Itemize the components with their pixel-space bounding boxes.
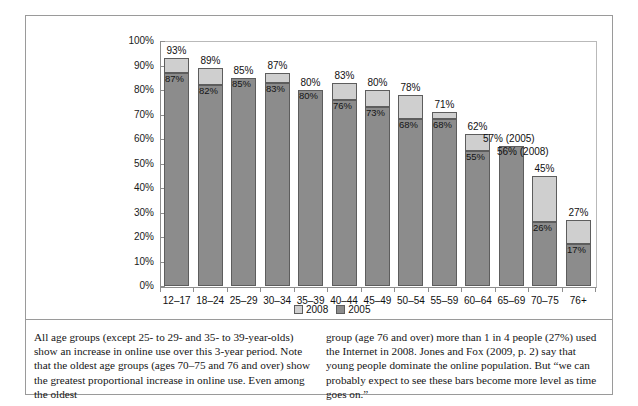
x-axis-tick-mark	[193, 287, 194, 292]
bar-total-label: 80%	[294, 77, 327, 88]
bar-total-label: 71%	[428, 99, 461, 110]
bar-segment-2005[interactable]	[164, 73, 189, 286]
bar-segment-2008[interactable]	[532, 176, 557, 223]
bar-value-label-2005: 76%	[333, 101, 358, 111]
bar-segment-2008[interactable]	[164, 58, 189, 73]
bar-value-label-2005: 68%	[399, 120, 424, 130]
chart-legend: 20082005	[294, 304, 375, 315]
y-axis-tick-label: 60%	[134, 134, 154, 144]
y-axis-tick-label: 100%	[128, 36, 154, 46]
bar-segment-2008[interactable]	[198, 68, 223, 85]
bar-value-label-2005: 83%	[266, 84, 291, 94]
bar-segment-2005[interactable]	[265, 83, 290, 286]
bar-value-label-2005: 55%	[466, 152, 491, 162]
bar-group[interactable]: 68%78%	[398, 41, 423, 286]
bar-group[interactable]: 73%80%	[365, 41, 390, 286]
bar-group[interactable]: 76%83%	[332, 41, 357, 286]
bar-total-label: 89%	[194, 55, 227, 66]
bar-segment-2005[interactable]	[332, 100, 357, 286]
caption-column-right: group (age 76 and over) more than 1 in 4…	[326, 330, 604, 394]
legend-entry: 2005	[336, 304, 370, 315]
x-axis-tick-mark	[294, 287, 295, 292]
bar-segment-2005[interactable]	[365, 107, 390, 286]
bar-group[interactable]: 55%62%	[465, 41, 490, 286]
bar-group[interactable]: 17%27%	[566, 41, 591, 286]
x-axis-tick-mark	[260, 287, 261, 292]
bar-segment-2005[interactable]	[298, 90, 323, 286]
bar-value-label-2005: 85%	[232, 79, 257, 89]
legend-label: 2005	[348, 304, 370, 315]
bar-total-label: 93%	[160, 45, 193, 56]
y-axis-tick-label: 40%	[134, 183, 154, 193]
legend-swatch-icon	[336, 305, 345, 314]
bar-value-label-2005: 26%	[533, 223, 558, 233]
bar-total-label: 27%	[562, 207, 595, 218]
y-axis-tick-label: 10%	[134, 257, 154, 267]
bar-value-label-2005: 68%	[433, 120, 458, 130]
bar-segment-2005[interactable]	[198, 85, 223, 286]
bar-group[interactable]: 83%87%	[265, 41, 290, 286]
x-axis-tick-mark	[227, 287, 228, 292]
x-axis-tick-mark	[495, 287, 496, 292]
legend-label: 2008	[306, 304, 328, 315]
legend-entry: 2008	[294, 304, 328, 315]
bar-value-label-2005: 80%	[299, 91, 324, 101]
y-axis-tick-label: 20%	[134, 232, 154, 242]
bar-segment-2005[interactable]	[398, 119, 423, 286]
bar-total-label: 85%	[227, 65, 260, 76]
bar-group[interactable]: 80%80%	[298, 41, 323, 286]
figure-caption: All age groups (except 25- to 29- and 35…	[26, 320, 612, 394]
x-axis-tick-mark	[361, 287, 362, 292]
bar-segment-2005[interactable]	[432, 119, 457, 286]
bar-total-label: 62%	[461, 121, 494, 132]
bar-segment-2008[interactable]	[566, 220, 591, 245]
bar-group[interactable]: 57% (2005)56% (2008)	[499, 41, 524, 286]
x-axis-tick-mark	[160, 287, 161, 292]
y-axis-tick-label: 90%	[134, 61, 154, 71]
bar-segment-2008[interactable]	[265, 73, 290, 83]
x-axis-tick-mark	[461, 287, 462, 292]
bar-total-label: 45%	[528, 163, 561, 174]
bar-segment-2005[interactable]	[499, 146, 524, 286]
bar-value-label-2005: 73%	[366, 108, 391, 118]
bar-group[interactable]: 68%71%	[432, 41, 457, 286]
bar-value-label-2005: 17%	[567, 245, 592, 255]
x-axis-tick-mark	[562, 287, 563, 292]
chart-region: 100%90%80%70%60%50%40%30%20%10%0% 87%93%…	[26, 16, 612, 319]
bar-segment-2005[interactable]	[465, 151, 490, 286]
bar-total-label: 87%	[261, 60, 294, 71]
bar-group[interactable]: 82%89%	[198, 41, 223, 286]
y-axis-tick-label: 0%	[140, 281, 154, 291]
bar-value-label-2005: 87%	[165, 74, 190, 84]
bar-group[interactable]: 26%45%	[532, 41, 557, 286]
x-axis-tick-mark	[394, 287, 395, 292]
y-axis-tick-label: 70%	[134, 110, 154, 120]
y-axis-tick-label: 50%	[134, 159, 154, 169]
bar-total-label: 83%	[328, 70, 361, 81]
x-axis-tick-mark	[327, 287, 328, 292]
bar-total-label: 80%	[361, 77, 394, 88]
y-axis-tick-label: 80%	[134, 85, 154, 95]
x-axis-tick-mark	[595, 287, 596, 292]
bar-segment-2008[interactable]	[398, 95, 423, 120]
y-axis: 100%90%80%70%60%50%40%30%20%10%0%	[51, 16, 154, 319]
bar-total-label: 78%	[394, 82, 427, 93]
legend-swatch-icon	[294, 305, 303, 314]
bar-segment-2005[interactable]	[231, 78, 256, 286]
x-axis-tick-label: 76+	[552, 295, 604, 306]
bar-value-label-2005: 82%	[199, 86, 224, 96]
x-axis-tick-mark	[428, 287, 429, 292]
bar-group[interactable]: 87%93%	[164, 41, 189, 286]
caption-column-left: All age groups (except 25- to 29- and 35…	[34, 330, 312, 394]
bar-segment-2008[interactable]	[365, 90, 390, 107]
y-axis-tick-label: 30%	[134, 208, 154, 218]
bar-segment-2008[interactable]	[432, 112, 457, 119]
bar-segment-2008[interactable]	[332, 83, 357, 100]
figure-frame: 100%90%80%70%60%50%40%30%20%10%0% 87%93%…	[25, 15, 613, 395]
bar-group[interactable]: 85%85%	[231, 41, 256, 286]
x-axis-tick-mark	[528, 287, 529, 292]
